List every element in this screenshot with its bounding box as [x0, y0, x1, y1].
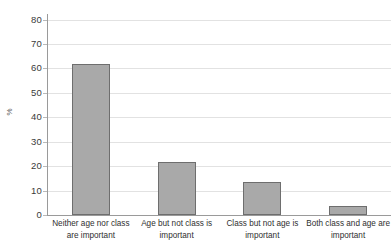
x-axis-tick-label: Class but not age isimportant [220, 218, 306, 241]
x-axis-tick-label-line: Age but not class is [134, 218, 220, 230]
y-axis-tick-labels: 80706050403020100 [14, 0, 42, 249]
y-axis-tick-mark [43, 20, 47, 21]
y-axis-tick-label: 70 [16, 39, 42, 49]
y-axis-tick-label: 60 [16, 63, 42, 73]
x-axis-tick-labels: Neither age nor classare importantAge bu… [48, 218, 391, 249]
x-axis-tick-label-line: important [134, 230, 220, 242]
y-axis-tick-mark [43, 68, 47, 69]
x-axis-tick-label-line: are important [48, 230, 134, 242]
x-axis-line [47, 215, 391, 216]
bar-slot [72, 14, 110, 215]
x-axis-tick-label-line: important [305, 230, 391, 242]
y-axis-tick-mark [43, 93, 47, 94]
bar[interactable] [72, 64, 110, 215]
bar[interactable] [329, 206, 367, 215]
x-axis-tick-label-line: Neither age nor class [48, 218, 134, 230]
y-axis-tick-mark [43, 117, 47, 118]
y-axis-tick-mark [43, 142, 47, 143]
x-axis-tick-label: Age but not class isimportant [134, 218, 220, 241]
x-axis-tick-label-line: important [220, 230, 306, 242]
bar[interactable] [158, 162, 196, 215]
y-axis-tick-label: 40 [16, 112, 42, 122]
y-axis-tick-mark [43, 166, 47, 167]
bar-slot [329, 14, 367, 215]
y-axis-tick-label: 0 [16, 210, 42, 220]
y-axis-tick-mark [43, 44, 47, 45]
x-axis-tick-label: Neither age nor classare important [48, 218, 134, 241]
y-axis-tick-label: 80 [16, 15, 42, 25]
y-axis-tick-label: 10 [16, 186, 42, 196]
bar-slot [158, 14, 196, 215]
y-axis-tick-mark [43, 215, 47, 216]
y-axis-tick-label: 30 [16, 137, 42, 147]
bar-slot [243, 14, 281, 215]
y-axis-title: % [6, 108, 14, 115]
x-axis-tick-label-line: Class but not age is [220, 218, 306, 230]
x-axis-tick-label-line: Both class and age are [305, 218, 391, 230]
x-axis-tick-label: Both class and age areimportant [305, 218, 391, 241]
bar[interactable] [243, 182, 281, 215]
plot-area [48, 14, 391, 215]
y-axis-tick-mark [43, 191, 47, 192]
bar-chart: 80706050403020100 % Neither age nor clas… [0, 0, 391, 249]
y-axis-tick-label: 50 [16, 88, 42, 98]
y-axis-tick-label: 20 [16, 161, 42, 171]
